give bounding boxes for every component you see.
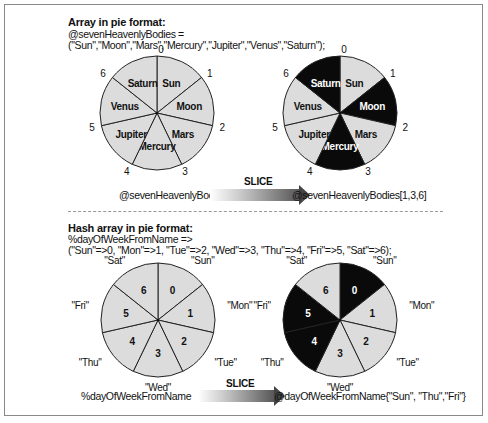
index-label: 1 — [390, 68, 396, 79]
slice-label-top: SLICE — [244, 176, 272, 187]
pie-hash-sliced: 0123456"Sun""Mon""Tue""Wed""Thu""Fri""Sa… — [253, 255, 435, 393]
slice-label: Moon — [359, 101, 385, 112]
slice-label: Moon — [176, 101, 202, 112]
index-label: 6 — [100, 68, 106, 79]
pie-array-original: SunMoonMarsMercuryJupiterVenusSaturn0123… — [89, 44, 225, 177]
slice-label-bottom: SLICE — [226, 378, 254, 389]
slice-label: Mars — [355, 129, 378, 140]
slice-label: 6 — [323, 285, 329, 296]
slice-label: 0 — [170, 285, 176, 296]
slice-label: Saturn — [311, 78, 341, 89]
slice-label: 6 — [141, 285, 147, 296]
hash-key-label: "Sat" — [104, 255, 125, 266]
hash-key-label: "Mon" — [227, 300, 253, 311]
slice-label: Mercury — [139, 141, 177, 152]
slice-label: Venus — [111, 101, 140, 112]
slice-label: Mercury — [322, 141, 360, 152]
pie-center — [339, 319, 342, 322]
hash-key-label: "Tue" — [396, 357, 419, 368]
index-label: 0 — [341, 44, 347, 55]
hash-key-label: "Sat" — [286, 255, 307, 266]
hash-values: ("Sun"=>0, "Mon"=>1, "Tue"=>2, "Wed"=>3,… — [68, 245, 391, 256]
pie-center — [157, 319, 160, 322]
slice-label: Sun — [345, 78, 363, 89]
pie-array-sliced: SunMoonMarsMercuryJupiterVenusSaturn0123… — [272, 44, 408, 177]
hash-result-caption: @dayOfWeekFromName{"Sun", "Thu","Fri"} — [274, 391, 466, 402]
hash-key-label: "Sun" — [373, 255, 397, 266]
hash-key-label: "Thu" — [79, 357, 103, 368]
hash-source-caption: %dayOfWeekFromName — [81, 391, 191, 402]
slice-label: Venus — [294, 101, 323, 112]
hash-key-label: "Tue" — [214, 357, 237, 368]
slice-label: 2 — [363, 336, 369, 347]
hash-key-label: "Fri" — [253, 300, 271, 311]
slice-label: 3 — [155, 348, 161, 359]
index-label: 5 — [89, 122, 95, 133]
hash-key-label: "Fri" — [71, 300, 89, 311]
index-label: 4 — [124, 166, 130, 177]
index-label: 0 — [158, 44, 164, 55]
slice-label: Saturn — [128, 78, 158, 89]
hash-key-label: "Mon" — [409, 300, 435, 311]
array-result-caption: @sevenHeavenlyBodies[1,3,6] — [292, 190, 426, 201]
index-label: 2 — [219, 122, 225, 133]
slice-label: 5 — [305, 308, 311, 319]
slice-label: 1 — [370, 308, 376, 319]
hash-key-label: "Sun" — [191, 255, 215, 266]
index-label: 1 — [207, 68, 213, 79]
section-divider — [68, 211, 443, 212]
index-label: 5 — [272, 122, 278, 133]
pie-hash-original: 0123456"Sun""Mon""Tue""Wed""Thu""Fri""Sa… — [71, 255, 253, 393]
slice-label: Sun — [162, 78, 180, 89]
index-label: 3 — [365, 166, 371, 177]
index-label: 2 — [402, 122, 408, 133]
pie-center — [339, 112, 342, 115]
index-label: 4 — [307, 166, 313, 177]
index-label: 3 — [182, 166, 188, 177]
slice-label: 3 — [337, 348, 343, 359]
slice-label: 2 — [181, 336, 187, 347]
slice-label: 1 — [188, 308, 194, 319]
slice-label: Jupiter — [299, 129, 331, 140]
index-label: 6 — [283, 68, 289, 79]
slice-label: Jupiter — [116, 129, 148, 140]
slice-label: 4 — [312, 336, 318, 347]
hash-key-label: "Thu" — [261, 357, 285, 368]
slice-label: 0 — [352, 285, 358, 296]
slice-label: 4 — [130, 336, 136, 347]
pie-center — [156, 112, 159, 115]
slice-label: Mars — [172, 129, 195, 140]
slice-label: 5 — [123, 308, 129, 319]
